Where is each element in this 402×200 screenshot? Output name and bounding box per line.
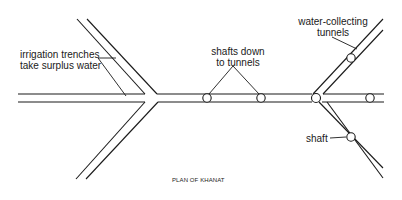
irrigation-label-line1: irrigation trenches: [20, 49, 101, 60]
shafts-label-line2: to tunnels: [210, 57, 266, 68]
shaft-circle-icon: [257, 94, 265, 102]
shaft-circle-icon: [366, 94, 374, 102]
shaft-circle-icon: [347, 133, 355, 141]
main-channel: [18, 94, 384, 102]
water-collecting-label: water-collecting tunnels: [296, 16, 370, 38]
shafts-label: shafts down to tunnels: [210, 46, 266, 68]
shaft-label: shaft: [306, 133, 328, 144]
irrigation-label: irrigation trenches take surplus water: [20, 49, 101, 71]
water-collecting-label-line1: water-collecting: [296, 16, 370, 27]
khanat-plan-diagram: irrigation trenches take surplus water s…: [0, 0, 402, 200]
water-collecting-label-line2: tunnels: [296, 27, 370, 38]
junction-shaft-circle-icon: [312, 94, 321, 103]
irrigation-label-line2: take surplus water: [20, 60, 101, 71]
shaft-circle-icon: [203, 94, 211, 102]
shaft-circle-icon: [347, 54, 355, 62]
diagram-caption: PLAN OF KHANAT: [172, 177, 225, 183]
irrigation-trench-lower: [76, 102, 158, 179]
shafts-label-line1: shafts down: [210, 46, 266, 57]
